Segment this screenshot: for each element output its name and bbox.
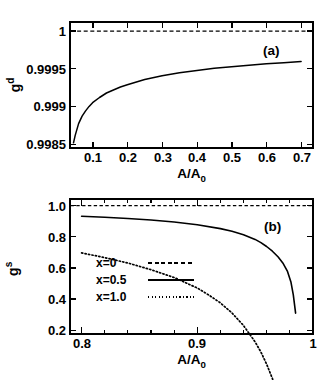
panel-a-xlabel-sub: 0 (200, 173, 205, 184)
panel-a-xtick-2: 0.2 (110, 150, 146, 165)
panel-b-xtick-3: 1 (298, 336, 328, 351)
panel-b-xtick-2: 0.9 (179, 336, 215, 351)
panel-a-xtick-5: 0.5 (214, 150, 250, 165)
panel-a-ylabel: gd (5, 65, 23, 105)
panel-a: 1 0.9995 0.999 0.9985 0.1 0.2 0.3 0.4 0.… (0, 0, 333, 190)
panel-b-xlabel: A/A0 (0, 352, 333, 370)
legend-item-x10: x=1.0 (96, 290, 206, 304)
legend-item-x05: x=0.5 (96, 273, 206, 287)
panel-a-ytick-4: 0.9985 (8, 137, 66, 152)
legend-label-x05: x=0.5 (96, 273, 126, 287)
panel-a-yticks (70, 31, 76, 144)
panel-a-xtick-7: 0.7 (284, 150, 320, 165)
panel-b-ytick-4: 0.4 (24, 292, 66, 307)
panel-b-right-ticks (307, 206, 313, 331)
panel-b-ytick-2: 0.8 (24, 230, 66, 245)
legend-swatch-x10-dotted (148, 296, 194, 298)
legend-swatch-x05-solid (148, 279, 194, 281)
panel-a-xlabel: A/A0 (0, 166, 333, 184)
panel-b-xtick-1: 0.8 (64, 336, 100, 351)
panel-b-ytick-5: 0.2 (24, 323, 66, 338)
panel-b-legend: x=0 x=0.5 x=1.0 (96, 256, 206, 304)
panel-a-xlabel-base: A/A (177, 166, 200, 181)
panel-b: 1.0 0.8 0.6 0.4 0.2 0.8 0.9 1 gs A/A0 (b… (0, 190, 333, 380)
panel-b-ylabel-sup: s (3, 262, 14, 268)
panel-b-tag: (b) (264, 219, 281, 234)
panel-b-yticks (70, 206, 76, 331)
panel-b-xticks (82, 327, 313, 334)
legend-item-x0: x=0 (96, 256, 206, 270)
panel-a-xtick-1: 0.1 (75, 150, 111, 165)
panel-a-tag: (a) (263, 43, 280, 58)
panel-a-xtick-6: 0.6 (249, 150, 285, 165)
panel-b-ytick-1: 1.0 (24, 199, 66, 214)
series-gd-curve (74, 62, 302, 143)
panel-b-ylabel-base: g (5, 267, 21, 276)
panel-a-top-ticks (93, 22, 302, 28)
panel-a-xtick-4: 0.4 (179, 150, 215, 165)
legend-swatch-x0-dashed (148, 262, 194, 264)
panel-a-ylabel-base: g (7, 84, 23, 93)
panel-b-ytick-3: 0.6 (24, 261, 66, 276)
panel-b-top-ticks (82, 199, 313, 206)
panel-b-xlabel-base: A/A (177, 352, 200, 367)
legend-label-x10: x=1.0 (96, 290, 126, 304)
panel-a-xticks (93, 142, 302, 148)
panel-a-right-ticks (307, 31, 313, 144)
figure-container: 1 0.9995 0.999 0.9985 0.1 0.2 0.3 0.4 0.… (0, 0, 333, 380)
panel-a-xtick-3: 0.3 (145, 150, 181, 165)
panel-a-ylabel-sup: d (5, 77, 16, 83)
panel-a-ytick-1: 1 (33, 24, 66, 39)
panel-b-xlabel-sub: 0 (200, 359, 205, 370)
panel-b-ylabel: gs (3, 249, 21, 289)
legend-label-x0: x=0 (96, 256, 116, 270)
